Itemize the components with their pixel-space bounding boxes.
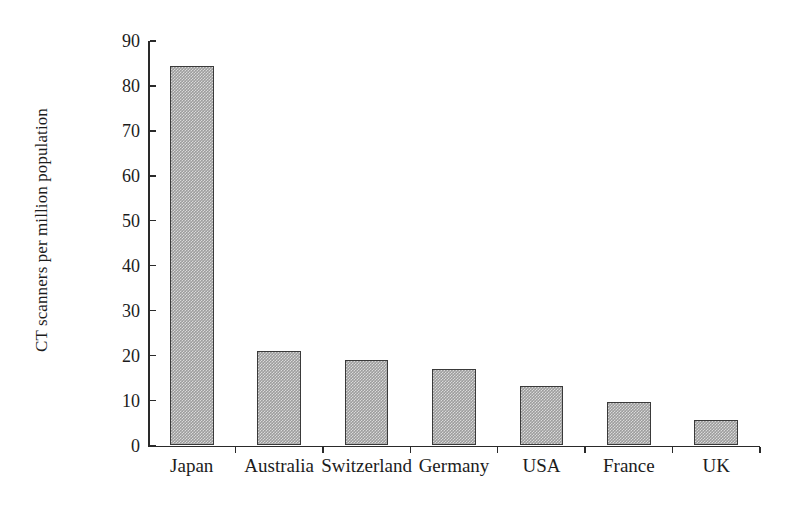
y-tick-label-90: 90 [122, 31, 140, 52]
bar-france [607, 402, 651, 446]
x-tick-5 [584, 447, 585, 453]
y-tick-label-30: 30 [122, 300, 140, 321]
x-label-japan: Japan [170, 455, 213, 477]
y-tick-70 [150, 130, 156, 131]
y-tick-label-10: 10 [122, 390, 140, 411]
x-tick-7 [759, 447, 760, 453]
x-tick-1 [235, 447, 236, 453]
y-tick-50 [150, 220, 156, 221]
plot-area: 0102030405060708090 [148, 41, 760, 447]
bar-australia [257, 351, 301, 445]
x-axis-category-labels: JapanAustraliaSwitzerlandGermanyUSAFranc… [148, 455, 760, 489]
x-tick-6 [672, 447, 673, 453]
y-tick-label-80: 80 [122, 75, 140, 96]
y-tick-label-50: 50 [122, 210, 140, 231]
x-tick-4 [497, 447, 498, 453]
y-tick-label-20: 20 [122, 345, 140, 366]
y-axis-title: CT scanners per million population [22, 60, 62, 400]
x-label-usa: USA [522, 455, 560, 477]
y-tick-10 [150, 400, 156, 401]
y-axis-tick-labels: 0102030405060708090 [92, 41, 140, 447]
x-label-germany: Germany [419, 455, 490, 477]
y-tick-label-60: 60 [122, 165, 140, 186]
y-tick-30 [150, 310, 156, 311]
y-tick-label-0: 0 [131, 435, 140, 456]
bar-germany [432, 369, 476, 445]
x-tick-2 [322, 447, 323, 453]
y-tick-90 [150, 40, 156, 41]
y-tick-label-40: 40 [122, 255, 140, 276]
y-tick-60 [150, 175, 156, 176]
bar-chart: CT scanners per million population 01020… [0, 0, 797, 506]
x-label-switzerland: Switzerland [321, 455, 412, 477]
y-tick-label-70: 70 [122, 120, 140, 141]
y-axis-line [148, 41, 150, 447]
x-axis-line [148, 446, 760, 448]
x-label-france: France [603, 455, 655, 477]
y-tick-20 [150, 355, 156, 356]
bar-usa [520, 386, 564, 445]
bar-japan [170, 66, 214, 446]
x-label-uk: UK [703, 455, 730, 477]
y-tick-0 [150, 445, 156, 446]
x-tick-3 [410, 447, 411, 453]
y-tick-40 [150, 265, 156, 266]
bar-switzerland [345, 360, 389, 445]
bar-uk [694, 420, 738, 446]
x-label-australia: Australia [244, 455, 314, 477]
y-tick-80 [150, 85, 156, 86]
